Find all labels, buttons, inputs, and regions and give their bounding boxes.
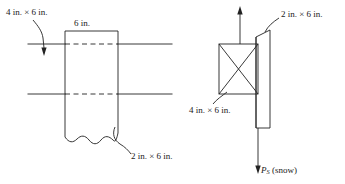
reaction-arrow-head [237, 6, 242, 15]
break-line [65, 133, 118, 144]
load-description: (snow) [272, 165, 297, 175]
leader-2x6-right [265, 18, 279, 32]
snow-load-arrow-head [255, 166, 260, 175]
label-6in-dimension: 6 in. [74, 19, 90, 28]
left-elevation-view [28, 20, 172, 154]
label-2x6-left: 2 in. × 6 in. [131, 152, 173, 161]
label-snow-load: PS (snow) [261, 166, 297, 176]
load-subscript: S [267, 168, 270, 175]
figure-container: 4 in. × 6 in. 6 in. 2 in. × 6 in. 2 in. … [0, 0, 345, 184]
label-4x6-right: 4 in. × 6 in. [189, 106, 231, 115]
label-2x6-right: 2 in. × 6 in. [281, 10, 323, 19]
label-4x6-left: 4 in. × 6 in. [6, 8, 48, 17]
leader-2x6-left [114, 127, 131, 154]
right-section-view [213, 6, 279, 174]
leader-4x6-left-arrowhead [41, 48, 46, 57]
